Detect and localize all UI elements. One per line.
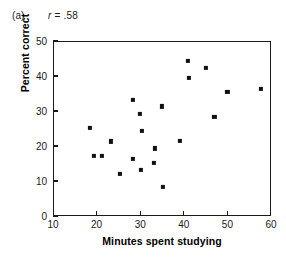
data-point: [204, 66, 208, 70]
data-point: [131, 157, 135, 161]
y-axis-tick-label: 30: [21, 106, 47, 117]
data-point: [100, 154, 104, 158]
data-point: [92, 154, 96, 158]
data-point: [187, 76, 191, 80]
y-axis-tick: [53, 145, 58, 146]
data-point: [161, 185, 165, 189]
data-point: [186, 59, 190, 63]
data-point: [225, 90, 229, 94]
y-axis-label: Percent correct: [19, 0, 31, 114]
plot-area: [53, 41, 271, 216]
data-point: [153, 146, 157, 150]
data-point: [139, 168, 143, 172]
data-point: [138, 112, 142, 116]
y-axis-tick-label: 50: [21, 36, 47, 47]
data-point: [131, 98, 135, 102]
data-point: [160, 104, 164, 108]
y-axis-tick-label: 40: [21, 71, 47, 82]
y-axis-tick: [53, 40, 58, 41]
y-axis-tick: [53, 110, 58, 111]
data-point: [88, 126, 92, 130]
y-axis-tick: [53, 215, 58, 216]
x-axis-tick-label: 10: [38, 219, 68, 230]
data-point: [109, 139, 113, 143]
x-axis-tick-label: 20: [82, 219, 112, 230]
y-axis-tick-label: 10: [21, 176, 47, 187]
x-axis-tick: [96, 211, 97, 216]
x-axis-tick-label: 60: [256, 219, 286, 230]
y-axis-tick-label: 20: [21, 141, 47, 152]
scatter-plot-figure: (a) r = .58 Percent correct Minutes spen…: [0, 0, 286, 262]
x-axis-tick-label: 30: [125, 219, 155, 230]
data-point: [152, 161, 156, 165]
x-axis-tick-label: 40: [169, 219, 199, 230]
x-axis-tick-label: 50: [212, 219, 242, 230]
data-point: [259, 87, 263, 91]
data-point: [178, 139, 182, 143]
y-axis-tick: [53, 75, 58, 76]
x-axis-tick: [227, 211, 228, 216]
data-point: [118, 172, 122, 176]
x-axis-tick: [140, 211, 141, 216]
correlation-annotation: r = .58: [48, 10, 78, 21]
data-point: [212, 115, 216, 119]
x-axis-label: Minutes spent studying: [53, 235, 271, 247]
correlation-value: = .58: [52, 10, 79, 21]
x-axis-tick: [183, 211, 184, 216]
data-point: [140, 129, 144, 133]
y-axis-tick: [53, 180, 58, 181]
